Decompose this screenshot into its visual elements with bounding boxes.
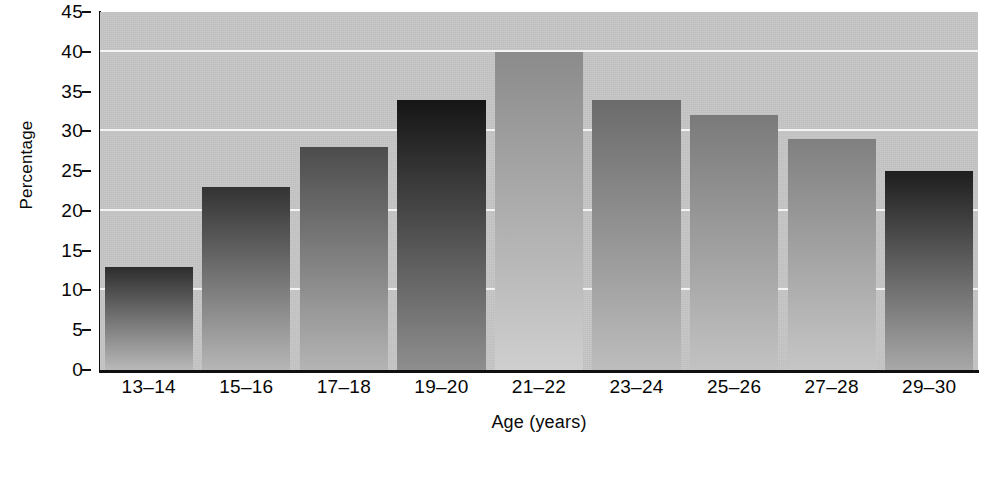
- x-axis-title: Age (years): [100, 412, 978, 433]
- y-tick-mark: [82, 91, 91, 93]
- x-tick-label: 13–14: [122, 376, 176, 398]
- x-tick-label: 29–30: [902, 376, 956, 398]
- x-tick-label: 21–22: [512, 376, 566, 398]
- x-tick-label: 27–28: [804, 376, 858, 398]
- y-tick-label: 25: [61, 160, 83, 182]
- y-axis-tick-labels: 051015202530354045: [0, 0, 100, 498]
- y-tick-mark: [82, 11, 91, 13]
- y-tick-label: 15: [61, 240, 83, 262]
- bar: [300, 147, 388, 370]
- y-tick-mark: [82, 170, 91, 172]
- y-tick-label: 45: [61, 1, 83, 23]
- y-tick-mark: [82, 369, 91, 371]
- bar: [690, 115, 778, 370]
- bar: [397, 100, 485, 370]
- bar: [592, 100, 680, 370]
- y-tick-mark: [82, 289, 91, 291]
- bar-chart-figure: Percentage 051015202530354045 13–1415–16…: [0, 0, 987, 498]
- y-tick-mark: [82, 130, 91, 132]
- x-tick-label: 19–20: [414, 376, 468, 398]
- y-tick-mark: [82, 329, 91, 331]
- x-axis-line: [99, 370, 979, 373]
- y-tick-mark: [82, 51, 91, 53]
- y-tick-mark: [82, 210, 91, 212]
- x-tick-label: 25–26: [707, 376, 761, 398]
- x-axis-tick-labels: 13–1415–1617–1819–2021–2223–2425–2627–28…: [100, 376, 978, 406]
- x-tick-label: 23–24: [609, 376, 663, 398]
- bar: [202, 187, 290, 370]
- y-tick-label: 20: [61, 200, 83, 222]
- plot-area: [100, 12, 978, 370]
- bar: [788, 139, 876, 370]
- bar: [105, 267, 193, 370]
- bar: [495, 52, 583, 370]
- y-tick-label: 10: [61, 279, 83, 301]
- y-tick-label: 30: [61, 120, 83, 142]
- y-tick-label: 40: [61, 41, 83, 63]
- y-tick-label: 35: [61, 81, 83, 103]
- bar: [885, 171, 973, 370]
- y-tick-mark: [82, 250, 91, 252]
- x-tick-label: 17–18: [317, 376, 371, 398]
- x-tick-label: 15–16: [219, 376, 273, 398]
